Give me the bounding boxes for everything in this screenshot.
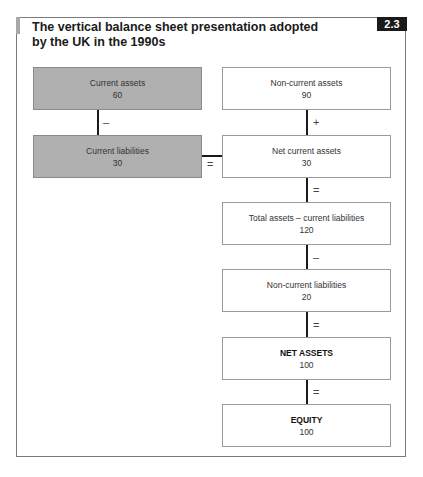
connector-line <box>306 178 308 202</box>
box-equity: EQUITY 100 <box>222 404 391 447</box>
operator-minus: – <box>103 116 109 128</box>
box-value: 60 <box>113 89 122 101</box>
figure-title: The vertical balance sheet presentation … <box>32 20 352 50</box>
box-value: 30 <box>302 157 311 169</box>
box-label: NET ASSETS <box>280 347 333 359</box>
connector-line <box>306 110 308 135</box>
box-label: Non-current assets <box>271 77 343 89</box>
box-value: 100 <box>299 426 313 438</box>
operator-equals: = <box>313 386 319 398</box>
box-net-current-assets: Net current assets 30 <box>222 135 391 178</box>
box-current-liabilities: Current liabilities 30 <box>33 135 202 178</box>
title-line-1: The vertical balance sheet presentation … <box>32 20 352 35</box>
connector-line <box>97 110 99 135</box>
box-current-assets: Current assets 60 <box>33 67 202 110</box>
box-label: Current liabilities <box>86 145 149 157</box>
operator-plus: + <box>313 116 319 128</box>
connector-line <box>306 380 308 404</box>
box-label: Non-current liabilities <box>267 279 346 291</box>
box-label: Net current assets <box>272 145 341 157</box>
frame-accent-strip <box>16 17 20 34</box>
title-line-2: by the UK in the 1990s <box>32 35 352 50</box>
box-net-assets: NET ASSETS 100 <box>222 337 391 380</box>
operator-minus: – <box>313 251 319 263</box>
box-label: EQUITY <box>291 414 323 426</box>
box-label: Current assets <box>90 77 145 89</box>
box-non-current-assets: Non-current assets 90 <box>222 67 391 110</box>
connector-line <box>306 312 308 337</box>
box-total-assets-less-current-liabilities: Total assets – current liabilities 120 <box>222 202 391 245</box>
box-value: 120 <box>299 224 313 236</box>
box-value: 20 <box>302 291 311 303</box>
figure-number-badge: 2.3 <box>377 17 407 31</box>
box-value: 100 <box>299 359 313 371</box>
box-label: Total assets – current liabilities <box>249 212 364 224</box>
box-non-current-liabilities: Non-current liabilities 20 <box>222 269 391 312</box>
box-value: 30 <box>113 157 122 169</box>
operator-equals: = <box>313 184 319 196</box>
connector-line <box>306 245 308 269</box>
connector-line <box>202 155 222 157</box>
box-value: 90 <box>302 89 311 101</box>
operator-equals: = <box>207 158 213 170</box>
operator-equals: = <box>313 319 319 331</box>
